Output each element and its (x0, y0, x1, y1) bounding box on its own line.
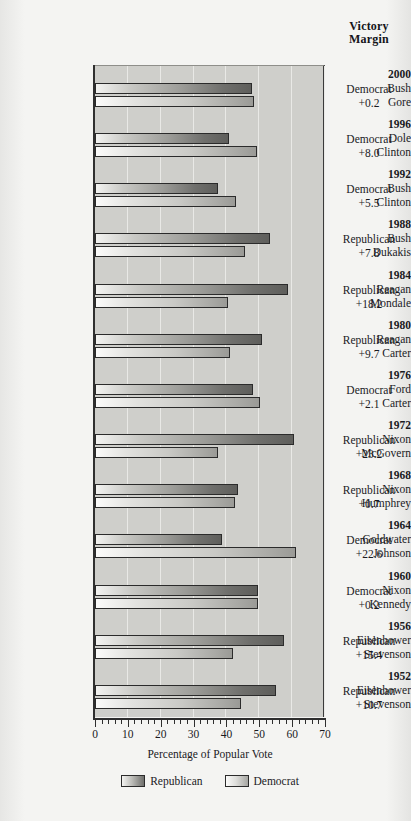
republican-bar (95, 284, 288, 295)
republican-bar (95, 83, 252, 94)
republican-swatch-icon (121, 775, 145, 787)
x-tick-label: 70 (313, 728, 337, 740)
legend-item-democrat: Democrat (225, 775, 299, 787)
victory-margin-value: +8.0 (330, 146, 408, 160)
democrat-bar (95, 648, 233, 659)
democrat-bar (95, 497, 235, 508)
x-tick (240, 720, 241, 724)
victory-margin-value: +7.8 (330, 246, 408, 260)
x-tick (128, 720, 129, 727)
victory-margin-value: +0.7 (330, 497, 408, 511)
victory-party: Republican (330, 232, 408, 246)
x-tick (286, 720, 287, 724)
x-tick (266, 720, 267, 724)
x-tick (233, 720, 234, 724)
year-label: 1988 (323, 218, 411, 230)
year-label: 1972 (323, 419, 411, 431)
x-tick (292, 720, 293, 727)
year-label: 1996 (323, 118, 411, 130)
republican-bar (95, 384, 253, 395)
x-tick-label: 0 (83, 728, 107, 740)
victory-margin-entry: Republican+15.4 (330, 634, 408, 662)
victory-party: Republican (330, 634, 408, 648)
legend-label-republican: Republican (150, 775, 202, 787)
republican-bar (95, 635, 284, 646)
x-tick (259, 720, 260, 727)
x-tick (279, 720, 280, 724)
victory-party: Democrat (330, 82, 408, 96)
year-label: 1956 (323, 620, 411, 632)
x-tick (312, 720, 313, 724)
year-label: 2000 (323, 68, 411, 80)
year-label: 1952 (323, 670, 411, 682)
democrat-bar (95, 698, 241, 709)
republican-bar (95, 585, 258, 596)
victory-margin-entry: Democrat+22.6 (330, 533, 408, 561)
victory-margin-header: Victory Margin (330, 20, 408, 46)
year-label: 1968 (323, 469, 411, 481)
x-tick (161, 720, 162, 727)
x-axis-title: Percentage of Popular Vote (95, 748, 325, 760)
victory-margin-value: +9.7 (330, 347, 408, 361)
democrat-bar (95, 146, 257, 157)
victory-margin-entry: Republican+7.8 (330, 232, 408, 260)
victory-margin-entry: Republican+0.7 (330, 483, 408, 511)
x-tick (213, 720, 214, 724)
republican-bar (95, 334, 262, 345)
victory-margin-value: +5.5 (330, 196, 408, 210)
year-label: 1976 (323, 369, 411, 381)
republican-bar (95, 183, 218, 194)
republican-bar (95, 434, 294, 445)
x-tick (207, 720, 208, 724)
year-label: 1992 (323, 168, 411, 180)
republican-bar (95, 133, 229, 144)
victory-margin-value: +10.7 (330, 698, 408, 712)
x-tick-label: 60 (280, 728, 304, 740)
chart-legend: Republican Democrat (95, 775, 325, 787)
victory-margin-entry: Democrat+0.2 (330, 584, 408, 612)
year-label: 1964 (323, 519, 411, 531)
x-tick (154, 720, 155, 724)
victory-margin-entry: Democrat+8.0 (330, 132, 408, 160)
victory-margin-entry: Democrat+2.1 (330, 383, 408, 411)
x-tick (134, 720, 135, 724)
democrat-swatch-icon (225, 775, 249, 787)
republican-bar (95, 534, 222, 545)
victory-party: Democrat (330, 533, 408, 547)
x-tick-label: 30 (182, 728, 206, 740)
x-tick (299, 720, 300, 724)
democrat-bar (95, 96, 254, 107)
republican-bar (95, 685, 276, 696)
victory-margin-value: +18.2 (330, 297, 408, 311)
x-tick-label: 50 (247, 728, 271, 740)
victory-party: Democrat (330, 383, 408, 397)
victory-margin-value: +2.1 (330, 397, 408, 411)
x-tick (102, 720, 103, 724)
victory-margin-value: +23.2 (330, 447, 408, 461)
x-tick (141, 720, 142, 724)
x-tick (272, 720, 273, 724)
y-axis-line (93, 65, 95, 718)
victory-party: Republican (330, 333, 408, 347)
democrat-bar (95, 598, 258, 609)
x-tick (167, 720, 168, 724)
legend-item-republican: Republican (121, 775, 202, 787)
victory-party: Democrat (330, 182, 408, 196)
x-tick (305, 720, 306, 724)
democrat-bar (95, 246, 245, 257)
victory-party: Republican (330, 684, 408, 698)
x-tick-label: 40 (214, 728, 238, 740)
victory-margin-entry: Democrat+5.5 (330, 182, 408, 210)
republican-bar (95, 233, 270, 244)
year-label: 1960 (323, 570, 411, 582)
x-tick-label: 20 (149, 728, 173, 740)
x-tick (325, 720, 326, 727)
x-tick (318, 720, 319, 724)
victory-party: Democrat (330, 132, 408, 146)
republican-bar (95, 484, 238, 495)
victory-margin-entry: Republican+23.2 (330, 433, 408, 461)
gridline-60 (291, 66, 292, 717)
x-tick (226, 720, 227, 727)
democrat-bar (95, 196, 236, 207)
victory-margin-value: +0.2 (330, 598, 408, 612)
